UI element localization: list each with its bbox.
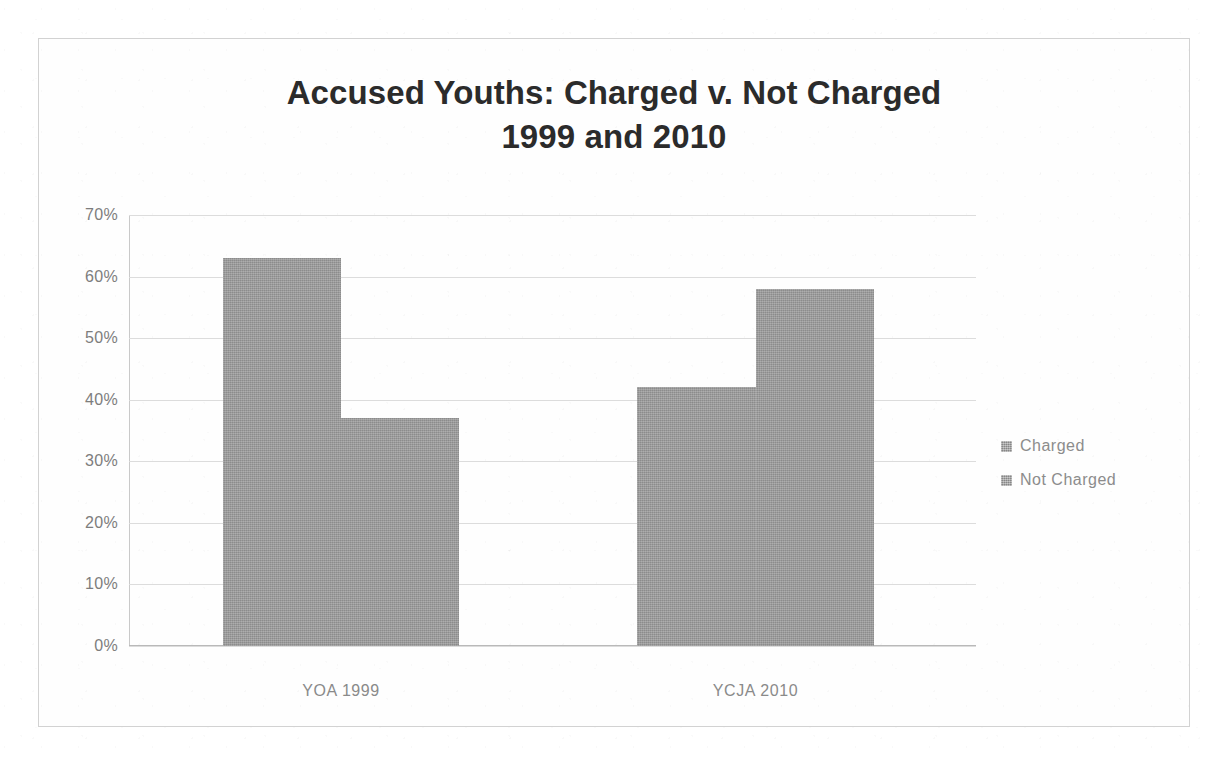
chart-legend: Charged Not Charged [1001, 429, 1116, 497]
x-axis-category-label: YOA 1999 [302, 682, 380, 700]
y-axis-tick-label: 30% [85, 452, 118, 470]
y-axis-tick-label: 50% [85, 329, 118, 347]
gridline [129, 646, 976, 647]
y-axis-tick-label: 20% [85, 514, 118, 532]
legend-label-not-charged: Not Charged [1020, 471, 1116, 489]
legend-label-charged: Charged [1020, 437, 1085, 455]
bar-not-charged-yoa-1999[interactable] [341, 418, 459, 646]
bar-not-charged-ycja-2010[interactable] [756, 289, 875, 646]
chart-title: Accused Youths: Charged v. Not Charged 1… [39, 71, 1189, 158]
y-axis-tick-label: 10% [85, 575, 118, 593]
y-axis-tick-label: 60% [85, 268, 118, 286]
y-axis-tick-label: 0% [94, 637, 118, 655]
y-axis-tick-label: 70% [85, 206, 118, 224]
legend-swatch-icon [1001, 475, 1012, 486]
legend-item-charged[interactable]: Charged [1001, 429, 1116, 463]
plot-area: 70%60%50%40%30%20%10%0% YOA 1999YCJA 201… [129, 215, 976, 646]
bar-charged-ycja-2010[interactable] [637, 387, 756, 646]
chart-title-line-2: 1999 and 2010 [39, 115, 1189, 159]
chart-figure-frame: Accused Youths: Charged v. Not Charged 1… [38, 38, 1190, 727]
chart-title-line-1: Accused Youths: Charged v. Not Charged [287, 74, 942, 111]
legend-item-not-charged[interactable]: Not Charged [1001, 463, 1116, 497]
y-axis-line [129, 215, 130, 646]
x-axis-category-label: YCJA 2010 [713, 682, 798, 700]
y-axis-tick-label: 40% [85, 391, 118, 409]
gridline [129, 215, 976, 216]
legend-swatch-icon [1001, 441, 1012, 452]
bar-charged-yoa-1999[interactable] [223, 258, 341, 646]
